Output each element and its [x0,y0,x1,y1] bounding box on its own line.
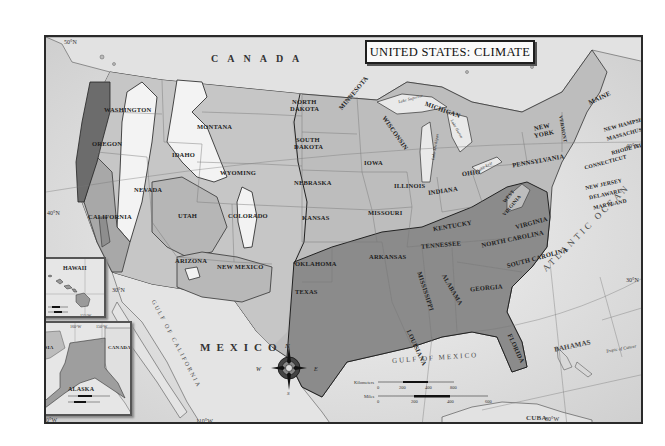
alaska-inset: RUSSIA CANADA ALASKA 160°W 150°W [44,321,132,416]
alaska-inset-title: ALASKA [68,386,94,392]
state-colorado: COLORADO [228,213,268,220]
compass-w: W [256,366,261,372]
lat-30n-west-label: 30°N [112,287,125,293]
state-arkansas: ARKANSAS [369,254,406,261]
climate-map [46,37,643,424]
compass-n: N [285,343,290,350]
mexico-label: MEXICO [200,342,282,353]
map-frame: HAWAII 20°N 160°W 155°W RUSSIA CANADA AL… [44,35,643,424]
scale-mi-tick-2: 400 [447,399,454,404]
lon-120w-label: 120°W [44,417,57,423]
state-utah: UTAH [178,213,197,220]
state-kansas: KANSAS [302,215,330,222]
alaska-lon-a-label: 160°W [70,325,81,329]
lat-40n-west-label: 40°N [47,210,60,216]
alaska-lon-b-label: 150°W [96,325,107,329]
map-title: UNITED STATES: CLIMATE [370,45,530,60]
state-nevada: NEVADA [134,187,162,194]
state-texas: TEXAS [295,289,318,296]
hawaii-inset: HAWAII 20°N 160°W 155°W [44,257,106,318]
state-north-dakota-line2: DAKOTA [290,106,319,113]
scale-km-tick-1: 200 [399,385,406,390]
state-south-dakota-line2: DAKOTA [294,144,323,151]
lon-80w-label: 80°W [545,416,559,422]
state-oklahoma: OKLAHOMA [295,261,337,268]
map-title-box: UNITED STATES: CLIMATE [365,40,535,64]
compass-s: S [287,391,290,396]
alaska-canada-label: CANADA [108,345,131,350]
alaska-russia-label: RUSSIA [44,345,54,350]
lon-110w-label: 110°W [196,418,213,424]
scale-mi-tick-3: 600 [485,399,492,404]
lat-30n-east-label: 30°N [626,277,639,283]
compass-e: E [314,366,318,372]
scale-km-tick-3: 800 [450,385,457,390]
scale-km-tick-0: 0 [377,385,379,390]
state-iowa: IOWA [364,160,383,167]
lat-40n-east-label: 40°N [626,143,639,149]
state-washington: WASHINGTON [104,107,151,114]
scale-km-tick-2: 400 [425,385,432,390]
state-nebraska: NEBRASKA [294,180,332,187]
scale-mi-tick-1: 200 [411,399,418,404]
hawaii-lon-right-label: 155°W [80,314,91,318]
scale-mi-tick-0: 0 [377,399,379,404]
state-wyoming: WYOMING [220,170,256,177]
canada-label: CANADA [211,54,308,64]
cuba-label: CUBA [526,415,547,422]
state-idaho: IDAHO [172,152,195,159]
state-arizona: ARIZONA [175,258,207,265]
alaska-graphic [44,323,132,416]
state-new-mexico: NEW MEXICO [217,264,263,271]
hawaii-inset-title: HAWAII [63,265,87,271]
state-california: CALIFORNIA [88,214,132,221]
state-montana: MONTANA [197,124,232,131]
state-missouri: MISSOURI [368,210,402,217]
state-illinois: ILLINOIS [394,183,425,190]
scale-km-label: Kilometers [354,380,374,385]
scale-mi-label: Miles [364,394,374,399]
lat-50n-label: 50°N [64,39,77,45]
state-oregon: OREGON [92,141,122,148]
